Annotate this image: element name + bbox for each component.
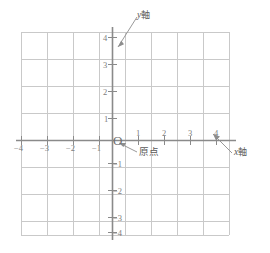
- x-tick-label-2: 2: [162, 129, 166, 138]
- y-tick-label-3: 3: [103, 61, 107, 70]
- x-axis-annotation: x軸: [234, 148, 247, 158]
- y-axis-annotation: y軸: [137, 11, 150, 21]
- y-axis-annotation-suffix: 軸: [141, 10, 150, 20]
- x-tick-label-3: 3: [188, 129, 192, 138]
- y-tick-label-minus2: −2: [113, 187, 122, 196]
- x-tick-label-minus3: −3: [40, 144, 49, 153]
- diagram-canvas: [0, 0, 270, 253]
- y-tick-label-1: 1: [104, 115, 108, 124]
- x-tick-label-4: 4: [214, 129, 218, 138]
- y-tick-label-minus3: −3: [113, 214, 122, 223]
- x-tick-label-minus4: −4: [14, 144, 23, 153]
- x-tick-label-minus1: −1: [92, 144, 101, 153]
- origin-annotation: 原点: [139, 148, 159, 158]
- y-tick-label-minus4: −4: [113, 229, 122, 238]
- x-axis-annotation-suffix: 軸: [238, 147, 247, 157]
- y-tick-label-4: 4: [103, 34, 107, 43]
- y-tick-label-minus1: −1: [113, 160, 122, 169]
- y-tick-label-2: 2: [103, 88, 107, 97]
- x-tick-label-minus2: −2: [66, 144, 75, 153]
- grid-lines-vertical: [22, 32, 230, 235]
- coordinate-plane-diagram: −4 −3 −2 −1 1 2 3 4 4 3 2 1 −1 −2 −3 −4 …: [0, 0, 270, 253]
- x-tick-label-1: 1: [136, 129, 140, 138]
- origin-label-O: O: [113, 134, 122, 147]
